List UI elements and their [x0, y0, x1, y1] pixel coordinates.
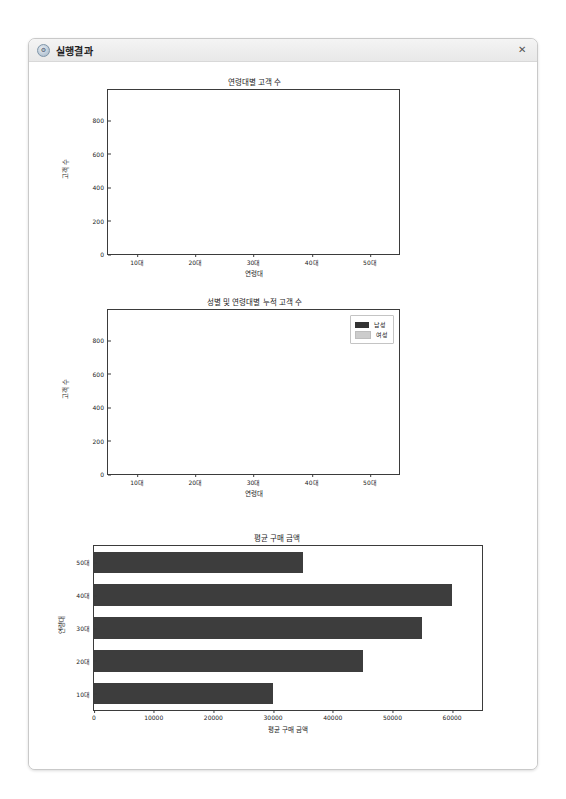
chart2-plot-area: 0200400600800 10대20대30대40대50대 남성여성	[107, 309, 400, 475]
chart3-plot-area: 10대20대30대40대50대 010000200003000040000500…	[93, 545, 483, 711]
x-axis-tick-label: 50대	[363, 254, 377, 267]
bar-slot	[283, 90, 341, 254]
result-window: ⚙ 실행결과 ✕ 연령대별 고객 수 0200400600800 10대20대3…	[28, 38, 538, 770]
y-axis-tick-label: 0	[100, 471, 108, 478]
legend-swatch	[355, 331, 371, 339]
x-axis-tick-label: 60000	[443, 710, 462, 721]
chart1-ylabel: 고객 수	[60, 149, 70, 189]
chart3-ylabel: 연령대	[56, 605, 66, 645]
chart1-title: 연령대별 고객 수	[77, 76, 432, 87]
x-axis-tick-label: 40대	[305, 254, 319, 267]
x-axis-tick-label: 0	[92, 710, 96, 721]
bar-50대	[94, 552, 303, 574]
bar-slot	[341, 90, 399, 254]
chart2-legend: 남성여성	[350, 315, 394, 344]
x-axis-tick-label: 20000	[204, 710, 223, 721]
legend-label: 남성	[374, 320, 386, 329]
figure-canvas: 연령대별 고객 수 0200400600800 10대20대30대40대50대 …	[29, 62, 537, 769]
bar-slot	[94, 644, 482, 677]
chart2-title: 성별 및 연령대별 누적 고객 수	[77, 296, 432, 307]
legend-entry: 여성	[355, 330, 388, 339]
bar-30대	[94, 617, 422, 639]
bar-slot	[283, 310, 341, 474]
bar-10대	[94, 683, 273, 705]
x-axis-tick-label: 20대	[188, 474, 202, 487]
y-axis-tick-label: 200	[93, 437, 108, 444]
bar-slot	[166, 310, 224, 474]
y-axis-tick-label: 200	[93, 217, 108, 224]
y-axis-tick-label: 600	[93, 150, 108, 157]
y-axis-tick-label: 400	[93, 184, 108, 191]
chart3-title: 평균 구매 금액	[77, 532, 477, 543]
x-axis-tick-label: 30000	[264, 710, 283, 721]
chart-gender-age-stacked: 성별 및 연령대별 누적 고객 수 0200400600800 10대20대30…	[47, 296, 519, 521]
bar-slot	[166, 90, 224, 254]
y-axis-tick-label: 50대	[76, 558, 94, 567]
y-axis-tick-label: 20대	[76, 656, 94, 665]
y-axis-tick-label: 600	[93, 370, 108, 377]
x-axis-tick-label: 10대	[130, 474, 144, 487]
chart-age-customer-count: 연령대별 고객 수 0200400600800 10대20대30대40대50대 …	[47, 76, 519, 291]
bar-slot	[94, 612, 482, 645]
y-axis-tick-label: 800	[93, 117, 108, 124]
x-axis-tick-label: 10대	[130, 254, 144, 267]
python-logo-icon: ⚙	[37, 44, 50, 57]
chart1-plot-area: 0200400600800 10대20대30대40대50대	[107, 89, 400, 255]
legend-label: 여성	[376, 330, 388, 339]
window-title: 실행결과	[56, 43, 93, 58]
y-axis-tick-label: 800	[93, 337, 108, 344]
chart-average-purchase-amount: 평균 구매 금액 10대20대30대40대50대 010000200003000…	[47, 532, 519, 757]
bar-40대	[94, 584, 452, 606]
y-axis-tick-label: 0	[100, 251, 108, 258]
chart2-ylabel: 고객 수	[60, 369, 70, 409]
x-axis-tick-label: 40000	[323, 710, 342, 721]
bar-20대	[94, 650, 363, 672]
y-axis-tick-label: 10대	[76, 689, 94, 698]
window-titlebar: ⚙ 실행결과 ✕	[29, 39, 537, 62]
chart3-xlabel: 평균 구매 금액	[93, 724, 483, 734]
y-axis-tick-label: 400	[93, 404, 108, 411]
x-axis-tick-label: 30대	[247, 474, 261, 487]
x-axis-tick-label: 50000	[383, 710, 402, 721]
chart2-xlabel: 연령대	[107, 488, 400, 498]
bar-slot	[94, 546, 482, 579]
x-axis-tick-label: 40대	[305, 474, 319, 487]
bar-slot	[94, 579, 482, 612]
chart1-xlabel: 연령대	[107, 268, 400, 278]
y-axis-tick-label: 30대	[76, 624, 94, 633]
bar-slot	[224, 310, 282, 474]
close-icon[interactable]: ✕	[514, 42, 529, 57]
legend-swatch	[355, 322, 369, 328]
x-axis-tick-label: 30대	[247, 254, 261, 267]
bar-slot	[108, 90, 166, 254]
x-axis-tick-label: 50대	[363, 474, 377, 487]
bar-slot	[224, 90, 282, 254]
bar-slot	[94, 677, 482, 710]
x-axis-tick-label: 10000	[144, 710, 163, 721]
legend-entry: 남성	[355, 320, 388, 329]
x-axis-tick-label: 20대	[188, 254, 202, 267]
y-axis-tick-label: 40대	[76, 591, 94, 600]
bar-slot	[108, 310, 166, 474]
